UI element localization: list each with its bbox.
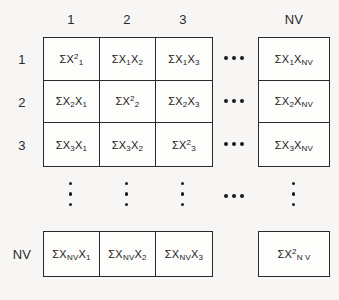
matrix-cell-r1c2: ΣX1X2 xyxy=(100,38,156,81)
variable-symbol: X xyxy=(175,95,183,107)
dot xyxy=(181,182,184,185)
vertical-ellipsis-col2 xyxy=(125,182,128,206)
variable-symbol: X xyxy=(284,248,292,260)
matrix-cell-rnvc2: ΣXNVX2 xyxy=(100,232,156,276)
dot xyxy=(240,194,244,198)
subscript: NV xyxy=(179,253,191,262)
matrix-bottom-row-block: ΣXNVX1 ΣXNVX2 ΣXNVX3 xyxy=(43,231,213,277)
matrix-cell-r1c3: ΣX1X3 xyxy=(156,38,212,81)
subscript-2: NV xyxy=(302,144,314,153)
dot xyxy=(69,182,72,185)
sigma-symbol: Σ xyxy=(165,248,172,260)
subscript: 2 xyxy=(135,101,140,110)
vertical-ellipsis-col3 xyxy=(181,182,184,206)
subscript-2: 1 xyxy=(83,101,88,110)
matrix-cell-r3c2: ΣX3X2 xyxy=(100,123,156,166)
subscript-2: NV xyxy=(302,101,314,110)
variable-symbol-2: X xyxy=(188,95,196,107)
row-label-1: 1 xyxy=(8,52,36,67)
dot xyxy=(224,99,228,103)
row-label-nv: NV xyxy=(8,247,36,262)
sigma-symbol: Σ xyxy=(275,139,282,151)
column-header-1: 1 xyxy=(43,12,99,27)
variable-symbol-2: X xyxy=(78,248,86,260)
variable-symbol-2: X xyxy=(75,95,83,107)
dot xyxy=(232,194,236,198)
column-header-2: 2 xyxy=(99,12,155,27)
subscript: 3 xyxy=(191,144,196,153)
subscript-2: NV xyxy=(302,58,314,67)
subscript-2: 2 xyxy=(142,253,147,262)
matrix-bottom-corner-block: ΣX2N V xyxy=(258,231,330,277)
dot xyxy=(125,203,128,206)
matrix-cell-r1c1: ΣX21 xyxy=(44,38,100,81)
dot xyxy=(292,182,295,185)
vertical-ellipsis-colnv xyxy=(292,182,295,206)
dot xyxy=(69,192,72,195)
variable-symbol-2: X xyxy=(188,53,196,65)
subscript-2: 2 xyxy=(139,58,144,67)
dot xyxy=(224,56,228,60)
matrix-main-block: ΣX21 ΣX1X2 ΣX1X3 ΣX2X1 ΣX22 ΣX2X3 ΣX3X1 … xyxy=(43,37,213,167)
column-header-nv: NV xyxy=(258,12,330,27)
matrix-cell-r1cnv: ΣX1XNV xyxy=(259,38,329,81)
variable-symbol: X xyxy=(123,95,131,107)
matrix-cell-rnvc3: ΣXNVX3 xyxy=(156,232,212,276)
dot xyxy=(240,56,244,60)
sigma-symbol: Σ xyxy=(60,53,67,65)
sigma-symbol: Σ xyxy=(275,95,282,107)
subscript: NV xyxy=(123,253,135,262)
subscript: 1 xyxy=(79,58,84,67)
dot xyxy=(292,203,295,206)
subscript: N V xyxy=(297,253,311,262)
figure-canvas: 1 2 3 NV 1 2 3 NV ΣX21 ΣX1X2 ΣX1X3 ΣX2X1… xyxy=(0,0,339,300)
dot xyxy=(181,192,184,195)
subscript: NV xyxy=(67,253,79,262)
subscript-2: 3 xyxy=(198,253,203,262)
variable-symbol-2: X xyxy=(294,139,302,151)
sigma-symbol: Σ xyxy=(172,139,179,151)
matrix-cell-r2c2: ΣX22 xyxy=(100,81,156,124)
matrix-cell-r2c3: ΣX2X3 xyxy=(156,81,212,124)
sigma-symbol: Σ xyxy=(56,139,63,151)
matrix-cell-r3c3: ΣX23 xyxy=(156,123,212,166)
dot xyxy=(181,203,184,206)
variable-symbol-2: X xyxy=(131,139,139,151)
dot xyxy=(240,142,244,146)
dot xyxy=(232,99,236,103)
subscript-2: 3 xyxy=(195,101,200,110)
matrix-cell-r2c1: ΣX2X1 xyxy=(44,81,100,124)
variable-symbol-2: X xyxy=(294,53,302,65)
sigma-symbol: Σ xyxy=(275,53,282,65)
horizontal-ellipsis-middle xyxy=(224,194,244,198)
dot xyxy=(224,142,228,146)
row-label-3: 3 xyxy=(8,138,36,153)
matrix-cell-r3cnv: ΣX3XNV xyxy=(259,123,329,166)
matrix-cell-r3c1: ΣX3X1 xyxy=(44,123,100,166)
variable-symbol: X xyxy=(67,53,75,65)
sigma-symbol: Σ xyxy=(116,95,123,107)
variable-symbol: X xyxy=(115,248,123,260)
variable-symbol-2: X xyxy=(294,95,302,107)
dot xyxy=(69,203,72,206)
horizontal-ellipsis-row2 xyxy=(224,99,244,103)
variable-symbol: X xyxy=(179,139,187,151)
row-label-2: 2 xyxy=(8,95,36,110)
matrix-cell-rnvcnv: ΣX2N V xyxy=(259,232,329,276)
horizontal-ellipsis-row1 xyxy=(224,56,244,60)
sigma-symbol: Σ xyxy=(56,95,63,107)
dot xyxy=(224,194,228,198)
dot xyxy=(292,192,295,195)
variable-symbol: X xyxy=(59,248,67,260)
matrix-cell-r2cnv: ΣX2XNV xyxy=(259,81,329,124)
sigma-symbol: Σ xyxy=(112,139,119,151)
matrix-cell-rnvc1: ΣXNVX1 xyxy=(44,232,100,276)
sigma-symbol: Σ xyxy=(112,53,119,65)
subscript-2: 2 xyxy=(139,144,144,153)
dot xyxy=(232,56,236,60)
column-header-3: 3 xyxy=(155,12,211,27)
subscript-2: 1 xyxy=(86,253,91,262)
subscript-2: 3 xyxy=(195,58,200,67)
vertical-ellipsis-col1 xyxy=(69,182,72,206)
variable-symbol-2: X xyxy=(75,139,83,151)
